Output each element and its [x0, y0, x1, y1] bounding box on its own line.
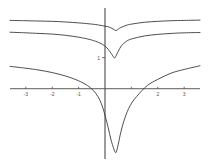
- x-axis-tick-label: 3: [183, 91, 186, 97]
- x-axis-tick-label: -2: [50, 91, 55, 97]
- plot-figure: -3-2-1231: [0, 0, 208, 167]
- x-axis-tick-label: -3: [24, 91, 29, 97]
- y-axis-tick-label: 1: [97, 55, 100, 61]
- x-axis-tick-label: 2: [156, 91, 159, 97]
- plot-canvas: -3-2-1231: [0, 0, 208, 167]
- x-axis-tick-label: -1: [76, 91, 81, 97]
